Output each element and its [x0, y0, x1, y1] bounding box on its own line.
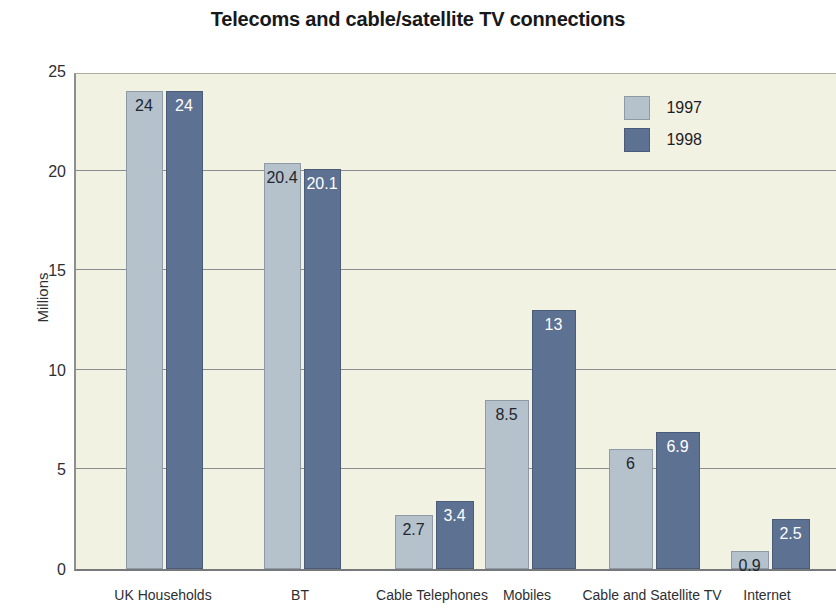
- bar-1998-uk-households[interactable]: 24: [166, 91, 203, 569]
- bar-1997-cable-telephones[interactable]: 2.7: [395, 515, 433, 569]
- x-axis-tick-label: Internet: [617, 587, 836, 603]
- bar-value-label: 20.4: [265, 169, 300, 187]
- legend-item-1998[interactable]: 1998: [624, 128, 702, 152]
- bar-1998-internet[interactable]: 2.5: [772, 519, 810, 569]
- bar-value-label: 24: [167, 97, 202, 115]
- bar-value-label: 0.9: [732, 557, 768, 575]
- bar-value-label: 2.5: [773, 525, 809, 543]
- legend-swatch-icon-1997: [624, 96, 650, 120]
- bar-value-label: 6: [610, 455, 652, 473]
- y-axis-tick-labels: 0510152025: [14, 0, 66, 611]
- plot-area: 242420.420.12.73.48.51366.90.92.5 1997 1…: [74, 73, 836, 571]
- y-axis-tick-label: 0: [22, 562, 66, 578]
- chart-root: Telecoms and cable/satellite TV connecti…: [0, 0, 836, 611]
- bar-1997-cable-and-satellite-tv[interactable]: 6: [609, 449, 653, 569]
- bar-1997-internet[interactable]: 0.9: [731, 551, 769, 569]
- x-axis-tick-labels: UK HouseholdsBTCable TelephonesMobilesCa…: [0, 583, 836, 609]
- bar-1998-mobiles[interactable]: 13: [532, 310, 576, 569]
- bar-value-label: 2.7: [396, 521, 432, 539]
- bar-value-label: 8.5: [486, 406, 528, 424]
- bar-1997-uk-households[interactable]: 24: [126, 91, 163, 569]
- legend-item-1997[interactable]: 1997: [624, 96, 702, 120]
- legend-label-1998: 1998: [666, 131, 702, 149]
- bar-1998-cable-telephones[interactable]: 3.4: [436, 501, 474, 569]
- y-axis-tick-label: 15: [22, 263, 66, 279]
- y-axis-tick-label: 5: [22, 462, 66, 478]
- bar-1997-mobiles[interactable]: 8.5: [485, 400, 529, 569]
- page-title: Telecoms and cable/satellite TV connecti…: [0, 8, 836, 31]
- bar-1998-bt[interactable]: 20.1: [304, 169, 341, 569]
- y-axis-tick-label: 25: [22, 64, 66, 80]
- bar-value-label: 3.4: [437, 507, 473, 525]
- bar-value-label: 6.9: [657, 438, 699, 456]
- legend-label-1997: 1997: [666, 99, 702, 117]
- bar-value-label: 13: [533, 316, 575, 334]
- legend-swatch-icon-1998: [624, 128, 650, 152]
- y-axis-tick-label: 20: [22, 164, 66, 180]
- bar-1998-cable-and-satellite-tv[interactable]: 6.9: [656, 432, 700, 569]
- bar-value-label: 24: [127, 97, 162, 115]
- y-axis-tick-label: 10: [22, 363, 66, 379]
- bar-1997-bt[interactable]: 20.4: [264, 163, 301, 569]
- legend: 1997 1998: [624, 96, 702, 152]
- bar-value-label: 20.1: [305, 175, 340, 193]
